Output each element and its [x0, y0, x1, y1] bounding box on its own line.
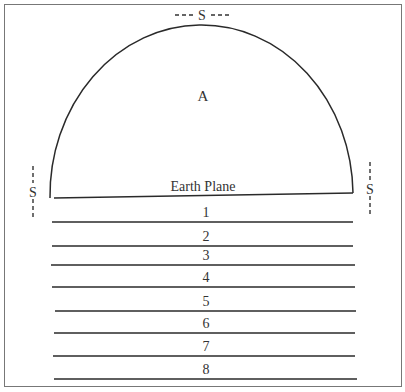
- level-label: 8: [203, 362, 210, 377]
- dome-label: A: [198, 88, 209, 104]
- diagram-canvas: S A Earth Plane S S 12345678: [0, 0, 405, 392]
- level-label: 3: [203, 248, 210, 263]
- level-label: 5: [203, 294, 210, 309]
- level-label: 6: [203, 316, 210, 331]
- right-s-marker: S: [366, 162, 374, 216]
- level-label: 7: [203, 339, 210, 354]
- earth-plane-label: Earth Plane: [171, 179, 236, 194]
- left-s-label: S: [29, 185, 37, 200]
- level-label: 4: [203, 270, 210, 285]
- level-label: 2: [203, 229, 210, 244]
- top-s-marker: S: [175, 8, 229, 23]
- left-s-marker: S: [29, 166, 37, 220]
- top-s-label: S: [198, 8, 206, 23]
- right-s-label: S: [366, 182, 374, 197]
- dome-arc: [50, 25, 353, 198]
- level-label: 1: [203, 205, 210, 220]
- levels-group: 12345678: [51, 205, 357, 379]
